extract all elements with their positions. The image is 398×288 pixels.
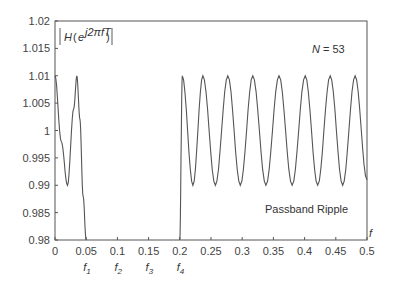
y-tick-label: 0.98 bbox=[29, 234, 50, 246]
y-tick-label: 1 bbox=[44, 125, 50, 137]
x-tick-label: 0.15 bbox=[138, 245, 159, 257]
svg-text:H: H bbox=[64, 31, 72, 43]
frequency-marker-label: f3 bbox=[146, 261, 154, 276]
x-tick-label: 0.35 bbox=[263, 245, 284, 257]
passband-ripple-annotation: Passband Ripple bbox=[265, 203, 348, 215]
y-axis: 0.980.9850.990.99511.0051.011.0151.02 bbox=[22, 15, 58, 246]
y-tick-label: 1.01 bbox=[29, 70, 50, 82]
passband-2-curve bbox=[180, 76, 367, 240]
y-tick-label: 1.02 bbox=[29, 15, 50, 27]
frequency-marker-label: f1 bbox=[83, 261, 91, 276]
x-tick-label: 0.4 bbox=[297, 245, 312, 257]
y-tick-label: 0.99 bbox=[29, 179, 50, 191]
frequency-markers: f1f2f3f4 bbox=[83, 261, 185, 276]
x-tick-label: 0.3 bbox=[235, 245, 250, 257]
y-tick-label: 0.995 bbox=[22, 152, 50, 164]
x-tick-label: 0.1 bbox=[110, 245, 125, 257]
svg-text:e: e bbox=[78, 31, 84, 43]
x-tick-label: 0.25 bbox=[200, 245, 221, 257]
passband-1-curve bbox=[55, 76, 86, 240]
n-annotation: N = 53 bbox=[312, 43, 345, 55]
magnitude-curves bbox=[55, 76, 367, 240]
x-tick-label: 0.2 bbox=[172, 245, 187, 257]
x-axis-label: f bbox=[369, 227, 373, 239]
x-tick-label: 0.5 bbox=[359, 245, 374, 257]
x-tick-label: 0.05 bbox=[75, 245, 96, 257]
chart: 0.980.9850.990.99511.0051.011.0151.02 00… bbox=[0, 0, 398, 288]
frequency-marker-label: f2 bbox=[114, 261, 122, 276]
y-tick-label: 1.015 bbox=[22, 42, 50, 54]
x-tick-label: 0.45 bbox=[325, 245, 346, 257]
svg-text:): ) bbox=[106, 31, 110, 43]
y-axis-label: H ( e j2πfT ) bbox=[60, 26, 112, 45]
x-tick-label: 0 bbox=[52, 245, 58, 257]
svg-text:(: ( bbox=[73, 31, 77, 43]
y-tick-label: 0.985 bbox=[22, 207, 50, 219]
y-tick-label: 1.005 bbox=[22, 97, 50, 109]
frequency-marker-label: f4 bbox=[177, 261, 185, 276]
